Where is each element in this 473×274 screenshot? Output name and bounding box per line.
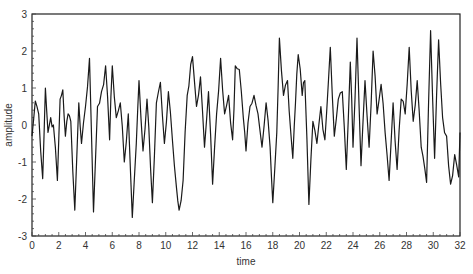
plot-border <box>32 14 460 236</box>
x-tick-label: 8 <box>136 240 142 251</box>
x-tick-label: 28 <box>401 240 413 251</box>
x-tick-label: 32 <box>454 240 466 251</box>
x-tick-label: 16 <box>240 240 252 251</box>
x-tick-label: 24 <box>347 240 359 251</box>
plot-area <box>32 14 460 236</box>
x-tick-label: 0 <box>29 240 35 251</box>
x-tick-label: 26 <box>374 240 386 251</box>
y-tick-label: -2 <box>18 194 27 205</box>
x-axis-label: time <box>237 256 256 267</box>
x-tick-label: 30 <box>428 240 440 251</box>
y-axis-label: amplitude <box>3 103 14 147</box>
y-tick-label: 3 <box>21 9 27 20</box>
y-tick-label: 0 <box>21 120 27 131</box>
x-tick-label: 12 <box>187 240 199 251</box>
y-tick-label: -3 <box>18 231 27 242</box>
line-chart: -3-2-10123 02468101214161820222426283032… <box>0 0 473 274</box>
x-tick-label: 22 <box>321 240 333 251</box>
x-tick-label: 6 <box>109 240 115 251</box>
y-tick-label: -1 <box>18 157 27 168</box>
x-tick-label: 4 <box>83 240 89 251</box>
y-tick-label: 2 <box>21 46 27 57</box>
x-tick-label: 10 <box>160 240 172 251</box>
y-tick-label: 1 <box>21 83 27 94</box>
x-tick-label: 2 <box>56 240 62 251</box>
x-tick-label: 14 <box>214 240 226 251</box>
x-tick-label: 20 <box>294 240 306 251</box>
x-tick-label: 18 <box>267 240 279 251</box>
